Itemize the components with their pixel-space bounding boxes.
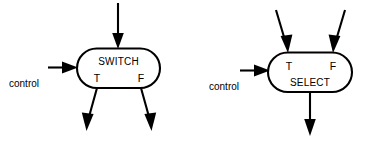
select-control-label: control xyxy=(209,81,239,92)
select-input-true-arrow xyxy=(276,10,292,53)
switch-data-input-arrow xyxy=(112,3,124,49)
select-input-false-arrow xyxy=(329,10,345,53)
switch-block-label: SWITCH xyxy=(98,56,139,67)
switch-output-false-arrow xyxy=(141,88,156,131)
switch-control-input-arrow xyxy=(48,61,78,73)
diagram-canvas: control SWITCH T F xyxy=(0,0,370,143)
switch-port-false-label: F xyxy=(138,72,144,84)
select-control-input-arrow xyxy=(240,64,270,76)
switch-control-label: control xyxy=(9,78,39,89)
switch-block-body[interactable] xyxy=(77,49,160,89)
select-port-false-label: F xyxy=(330,60,336,72)
switch-port-true-label: T xyxy=(94,72,101,84)
switch-block-group: control SWITCH T F xyxy=(9,3,160,131)
select-block-group: control T F SELECT xyxy=(209,10,352,136)
select-block-label: SELECT xyxy=(290,77,330,88)
select-port-true-label: T xyxy=(286,60,293,72)
select-data-output-arrow xyxy=(304,92,316,136)
switch-output-true-arrow xyxy=(82,88,97,131)
